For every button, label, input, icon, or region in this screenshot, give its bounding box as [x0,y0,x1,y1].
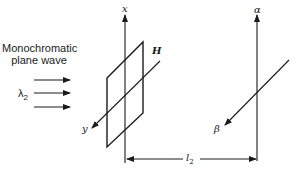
distance-subscript: 2 [189,158,193,166]
y-axis-label: y [82,124,88,134]
distance-label: l2 [186,153,194,166]
plane-h-label: H [152,46,161,56]
source-title-line1: Monochromatic [2,43,76,54]
diagram-canvas [0,0,305,172]
source-title-line2: plane wave [2,55,76,66]
wavelength-subscript: 2 [24,93,28,102]
y-axis-arrow [92,61,160,128]
x-axis-label: x [122,4,128,14]
plane-wave-arrows [34,80,70,107]
alpha-axis-label: α [254,5,261,15]
wavelength-label: λ2 [18,88,28,102]
beta-axis-label: β [214,124,220,134]
